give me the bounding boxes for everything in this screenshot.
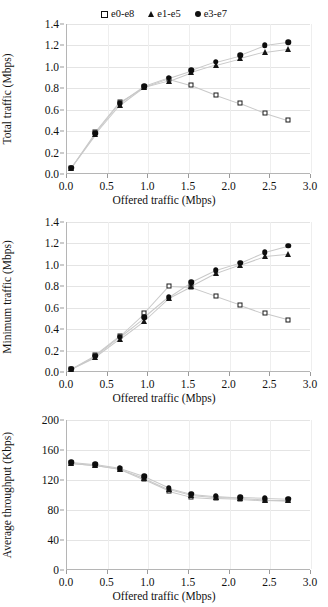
gridline-vertical: [270, 24, 271, 173]
y-tick-label: 1.4: [45, 18, 59, 30]
y-tick-mark: [60, 420, 64, 421]
y-tick-label: 0.8: [45, 280, 59, 292]
gridline-vertical: [189, 24, 190, 173]
series-connector-line: [240, 103, 265, 114]
y-tick-mark: [60, 510, 64, 511]
x-tick-label: 1.5: [181, 576, 195, 588]
data-point-e3-e7: [142, 474, 148, 480]
x-tick-label: 1.5: [181, 180, 195, 192]
legend-label-e1-e5: e1-e5: [157, 9, 180, 20]
y-axis-label-wrap: Average throughput (Kbps): [0, 420, 16, 570]
y-tick-mark: [60, 66, 64, 67]
y-tick-mark: [60, 88, 64, 89]
x-tick-mark: [66, 372, 67, 376]
y-tick-label: 1.2: [45, 39, 59, 51]
data-point-e0-e8: [189, 83, 194, 88]
x-tick-mark: [229, 570, 230, 574]
data-point-e3-e7: [262, 249, 268, 255]
y-tick-mark: [60, 45, 64, 46]
x-tick-label: 0.5: [99, 576, 113, 588]
x-tick-mark: [229, 174, 230, 178]
legend-entry-e0-e8: e0-e8: [101, 9, 134, 20]
y-tick-label: 0: [53, 564, 59, 576]
data-point-e3-e7: [93, 131, 99, 137]
x-tick-label: 2.0: [221, 180, 235, 192]
gridline-vertical: [311, 420, 312, 569]
y-tick-mark: [60, 540, 64, 541]
data-point-e3-e7: [166, 75, 172, 81]
data-point-e3-e7: [68, 366, 74, 372]
y-tick-label: 0.2: [45, 345, 59, 357]
open-triangle-marker-icon: [148, 11, 154, 17]
y-tick-mark: [60, 286, 64, 287]
data-point-e1-e5: [262, 49, 268, 55]
gridline-vertical: [270, 222, 271, 371]
y-tick-label: 0.0: [45, 366, 59, 378]
x-tick-mark: [107, 372, 108, 376]
series-connector-line: [216, 95, 241, 105]
data-point-e3-e7: [117, 101, 123, 107]
data-point-e3-e7: [213, 267, 219, 273]
gridline-vertical: [108, 222, 109, 371]
data-point-e3-e7: [285, 39, 291, 45]
y-tick-mark: [60, 24, 64, 25]
gridline-vertical: [230, 222, 231, 371]
data-point-e3-e7: [142, 83, 148, 89]
plot-area: [66, 420, 310, 570]
x-tick-label: 0.5: [99, 180, 113, 192]
series-connector-line: [191, 85, 216, 96]
data-point-e0-e8: [286, 118, 291, 123]
x-tick-label: 3.0: [303, 180, 317, 192]
gridline-vertical: [311, 24, 312, 173]
data-point-e0-e8: [213, 293, 218, 298]
y-tick-label: 0.2: [45, 147, 59, 159]
x-tick-mark: [147, 174, 148, 178]
series-connector-line: [191, 287, 216, 297]
data-point-e3-e7: [237, 495, 243, 501]
x-tick-label: 1.5: [181, 378, 195, 390]
x-axis-ticks: 0.00.51.01.52.02.53.0: [66, 174, 310, 192]
gridline-vertical: [270, 420, 271, 569]
x-tick-mark: [269, 174, 270, 178]
x-tick-mark: [188, 174, 189, 178]
y-tick-label: 0.4: [45, 323, 59, 335]
y-tick-mark: [60, 222, 64, 223]
data-point-e3-e7: [237, 52, 243, 58]
x-axis-ticks: 0.00.51.01.52.02.53.0: [66, 372, 310, 390]
y-tick-label: 1.2: [45, 237, 59, 249]
data-point-e1-e5: [285, 46, 291, 52]
y-axis-ticks: 0.00.20.40.60.81.01.21.4: [16, 222, 64, 372]
x-tick-mark: [147, 372, 148, 376]
y-tick-mark: [60, 264, 64, 265]
x-tick-mark: [310, 372, 311, 376]
data-point-e3-e7: [117, 334, 123, 340]
y-tick-mark: [60, 109, 64, 110]
data-point-e3-e7: [189, 491, 195, 497]
data-point-e3-e7: [213, 59, 219, 65]
x-tick-mark: [269, 570, 270, 574]
y-tick-label: 0.8: [45, 82, 59, 94]
data-point-e3-e7: [213, 493, 219, 499]
gridline-vertical: [311, 222, 312, 371]
data-point-e3-e7: [93, 462, 99, 468]
data-point-e3-e7: [166, 294, 172, 300]
chart-panel-total-traffic: Total traffic (Mbps) 0.00.20.40.60.81.01…: [0, 24, 328, 220]
data-point-e0-e8: [238, 302, 243, 307]
gridline-vertical: [230, 24, 231, 173]
gridline-vertical: [148, 222, 149, 371]
legend-label-e0-e8: e0-e8: [111, 9, 134, 20]
x-tick-mark: [188, 570, 189, 574]
x-axis-label: Offered traffic (Mbps): [0, 392, 328, 404]
x-tick-label: 0.0: [59, 378, 73, 390]
y-tick-mark: [60, 570, 64, 571]
y-tick-mark: [60, 480, 64, 481]
x-tick-label: 1.0: [140, 576, 154, 588]
x-tick-label: 1.0: [140, 378, 154, 390]
data-point-e3-e7: [142, 315, 148, 321]
y-tick-label: 0.4: [45, 125, 59, 137]
x-tick-label: 1.0: [140, 180, 154, 192]
data-point-e3-e7: [166, 485, 172, 491]
y-tick-label: 200: [42, 414, 59, 426]
y-axis-label: Minimum traffic (Mbps): [1, 240, 13, 354]
